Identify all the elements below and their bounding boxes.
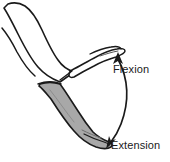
extension-label: Extension: [111, 140, 160, 151]
anatomy-diagram: Flexion Extension: [0, 0, 170, 162]
diagram-canvas: [0, 0, 170, 162]
extended-leg-outline: [39, 83, 112, 149]
thigh-outline: [4, 3, 74, 82]
upper-leg-shape: [2, 3, 74, 82]
flexion-label: Flexion: [113, 64, 149, 75]
lower-leg-extended-shaded: [38, 82, 112, 149]
